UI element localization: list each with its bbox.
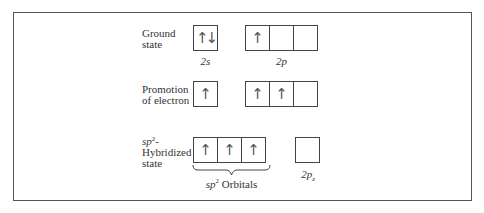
ground-state-label-line2: state <box>142 39 176 50</box>
curly-brace-icon <box>192 164 271 178</box>
orbital-box: ↑ <box>193 81 218 107</box>
orbital-box: ↑↓ <box>193 25 218 51</box>
promotion-label-line2: of electron <box>142 95 189 106</box>
orbital-box <box>293 81 318 107</box>
2pz-orbital <box>295 137 320 163</box>
orbital-box: ↑ <box>193 137 218 163</box>
orbital-box <box>293 25 318 51</box>
promotion-2s-orbital: ↑ <box>193 81 218 107</box>
up-arrow-icon: ↑ <box>223 141 236 159</box>
promotion-2p-orbitals: ↑ ↑ <box>245 81 318 107</box>
hybridized-label-line3: state <box>142 158 191 169</box>
orbital-box: ↑ <box>245 81 270 107</box>
sp2-orbitals: ↑ ↑ ↑ <box>193 137 266 163</box>
up-arrow-icon: ↑ <box>199 85 212 103</box>
up-arrow-icon: ↑ <box>199 141 212 159</box>
label-2pz: 2pz <box>295 168 321 183</box>
orbital-box <box>295 137 320 163</box>
ground-2s-orbital: ↑↓ <box>193 25 218 51</box>
label-2p: 2p <box>245 55 318 67</box>
paired-electron-arrows-icon: ↑↓ <box>196 29 215 47</box>
promotion-label: Promotion of electron <box>142 84 189 106</box>
up-arrow-icon: ↑ <box>251 29 264 47</box>
ground-2p-orbitals: ↑ <box>245 25 318 51</box>
label-sp2-orbitals: sp2 Orbitals <box>193 177 270 190</box>
orbital-box: ↑ <box>241 137 266 163</box>
label-2s: 2s <box>193 55 218 67</box>
orbital-box <box>269 25 294 51</box>
hybridized-label: sp2- Hybridized state <box>142 136 191 169</box>
ground-state-label: Ground state <box>142 28 176 50</box>
up-arrow-icon: ↑ <box>251 85 264 103</box>
orbital-box: ↑ <box>217 137 242 163</box>
up-arrow-icon: ↑ <box>275 85 288 103</box>
orbital-box: ↑ <box>269 81 294 107</box>
orbital-box: ↑ <box>245 25 270 51</box>
up-arrow-icon: ↑ <box>247 141 260 159</box>
